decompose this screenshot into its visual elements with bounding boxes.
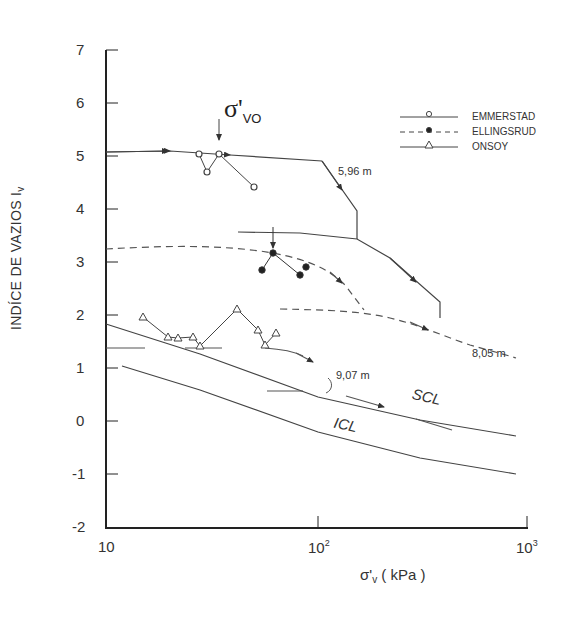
x-tick-1000: 103 bbox=[516, 538, 538, 556]
y-tick-0: 0 bbox=[76, 412, 84, 429]
series-emmerstad bbox=[106, 119, 440, 318]
series-onsoy bbox=[106, 309, 452, 430]
y-tick-minus1: -1 bbox=[72, 465, 85, 482]
y-ticks bbox=[106, 50, 118, 474]
y-tick-1: 1 bbox=[76, 359, 84, 376]
y-tick-minus2: -2 bbox=[72, 518, 85, 535]
legend-ellingsrud: ELLINGSRUD bbox=[472, 126, 536, 137]
y-tick-4: 4 bbox=[76, 200, 84, 217]
icl-line bbox=[122, 366, 516, 474]
legend-markers bbox=[400, 111, 458, 148]
sigma-vo-annotation: σ'VO bbox=[224, 94, 262, 126]
chart-plot bbox=[0, 0, 578, 618]
y-tick-7: 7 bbox=[76, 41, 84, 58]
depth-label-ellingsrud: 8,05 m bbox=[472, 347, 506, 359]
y-axis-label: INDÍCE DE VAZIOS Iv bbox=[8, 187, 26, 330]
x-axis-label: σ'v ( kPa ) bbox=[360, 566, 425, 585]
y-tick-2: 2 bbox=[76, 306, 84, 323]
y-tick-3: 3 bbox=[76, 253, 84, 270]
onsoy-points bbox=[139, 305, 280, 349]
y-tick-5: 5 bbox=[76, 147, 84, 164]
y-tick-6: 6 bbox=[76, 94, 84, 111]
x-tick-10: 10 bbox=[98, 538, 115, 555]
x-ticks bbox=[318, 516, 527, 528]
depth-label-emmerstad: 5,96 m bbox=[338, 165, 372, 177]
legend-emmerstad: EMMERSTAD bbox=[472, 111, 535, 122]
legend-onsoy: ONSOY bbox=[472, 141, 508, 152]
x-tick-100: 102 bbox=[308, 538, 330, 556]
depth-label-onsoy: 9,07 m bbox=[336, 369, 370, 381]
axes bbox=[105, 50, 528, 528]
series-ellingsrud bbox=[106, 246, 516, 358]
ellingsrud-points bbox=[259, 227, 309, 278]
